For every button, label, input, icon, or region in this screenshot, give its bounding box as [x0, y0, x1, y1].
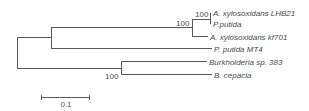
bootstrap-value: 100 — [176, 19, 190, 28]
taxon-label: P. putida MT4 — [214, 45, 263, 54]
bootstrap-value: 100 — [195, 10, 209, 19]
taxon-label: Burkholderia sp. 383 — [209, 58, 283, 67]
taxon-label: A. xylosoxidans kf701 — [209, 33, 287, 42]
scale-bar-label: 0.1 — [60, 100, 72, 109]
taxon-label: P.putida — [213, 20, 242, 29]
bootstrap-value: 100 — [105, 72, 119, 81]
phylogenetic-tree: A. xylosoxidans LHB21 P.putida A. xyloso… — [0, 0, 309, 111]
taxon-label: B. cepacia — [214, 71, 252, 80]
taxon-label: A. xylosoxidans LHB21 — [212, 9, 295, 18]
